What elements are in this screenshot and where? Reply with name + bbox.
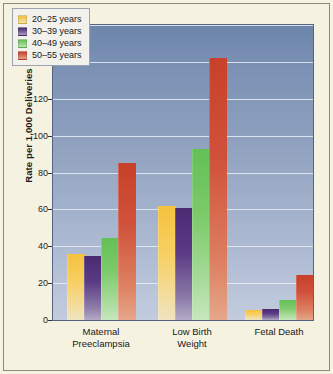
legend-swatch-icon: [18, 39, 27, 48]
bar[interactable]: [296, 275, 314, 320]
y-tick-label: 40: [8, 241, 48, 251]
y-tick-label: 60: [8, 204, 48, 214]
legend-swatch-icon: [18, 51, 27, 60]
bar[interactable]: [118, 163, 136, 320]
bar[interactable]: [84, 256, 102, 320]
legend-label: 40–49 years: [32, 38, 82, 49]
x-tick-label-line: Weight: [137, 338, 247, 350]
bar[interactable]: [245, 310, 263, 320]
legend-swatch-icon: [18, 27, 27, 36]
legend-label: 30–39 years: [32, 26, 82, 37]
y-axis-title: Rate per 1,000 Deliveries: [23, 46, 34, 206]
y-tick-label: 0: [8, 315, 48, 325]
y-tick-label: 20: [8, 278, 48, 288]
bar[interactable]: [209, 58, 227, 320]
bar[interactable]: [101, 238, 119, 320]
legend-swatch-icon: [18, 15, 27, 24]
legend-item[interactable]: 30–39 years: [18, 25, 82, 37]
legend-item[interactable]: 20–25 years: [18, 13, 82, 25]
bar[interactable]: [262, 309, 280, 320]
y-tick-label: 100: [8, 130, 48, 140]
bar[interactable]: [158, 206, 176, 320]
legend-item[interactable]: 50–55 years: [18, 49, 82, 61]
bar[interactable]: [67, 254, 85, 320]
legend-label: 20–25 years: [32, 14, 82, 25]
bar[interactable]: [175, 208, 193, 320]
x-tick-label-line: Fetal Death: [224, 326, 333, 338]
figure-canvas: Rate per 1,000 Deliveries 02040608010012…: [0, 0, 333, 374]
x-tick-label: Fetal Death: [224, 326, 333, 338]
bar[interactable]: [279, 300, 297, 320]
plot-area: [52, 24, 314, 321]
legend[interactable]: 20–25 years30–39 years40–49 years50–55 y…: [12, 8, 90, 66]
y-tick-label: 120: [8, 93, 48, 103]
legend-label: 50–55 years: [32, 50, 82, 61]
bar-group: [67, 25, 135, 320]
bar-group: [245, 25, 313, 320]
bar[interactable]: [192, 149, 210, 320]
y-tick-label: 80: [8, 167, 48, 177]
bar-group: [158, 25, 226, 320]
legend-item[interactable]: 40–49 years: [18, 37, 82, 49]
